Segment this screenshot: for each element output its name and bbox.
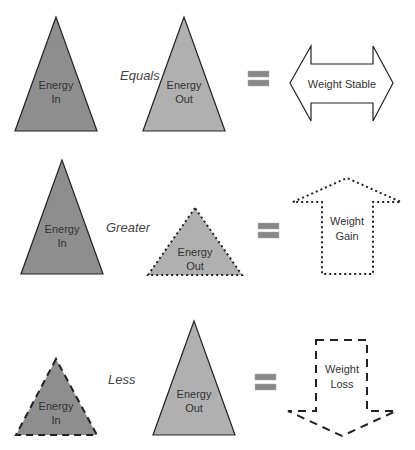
- energy-out-triangle: [153, 321, 235, 435]
- result-label: Weight Stable: [308, 78, 376, 90]
- energy-in-label: Energy: [39, 79, 74, 91]
- energy-in-label-2: In: [51, 414, 60, 426]
- result-label-2: Gain: [335, 230, 358, 242]
- operator-label: Greater: [106, 220, 151, 235]
- energy-out-label-2: Out: [175, 93, 193, 105]
- row-equals: Energy In Equals Energy Out Weight Stabl…: [15, 17, 393, 131]
- energy-out-label: Energy: [177, 388, 212, 400]
- result-label-2: Loss: [330, 378, 354, 390]
- energy-balance-diagram: Energy In Equals Energy Out Weight Stabl…: [0, 0, 415, 450]
- result-label: Weight: [330, 215, 364, 227]
- row-greater: Energy In Greater Energy Out Weight Gain: [21, 160, 401, 275]
- energy-out-label-2: Out: [186, 260, 204, 272]
- energy-out-label: Energy: [167, 79, 202, 91]
- equals-icon: [248, 71, 269, 86]
- operator-label: Less: [108, 372, 136, 387]
- energy-in-label: Energy: [45, 223, 80, 235]
- row-less: Energy In Less Energy Out Weight Loss: [16, 321, 396, 436]
- operator-label: Equals: [120, 68, 160, 83]
- energy-in-label: Energy: [39, 400, 74, 412]
- energy-out-label: Energy: [178, 246, 213, 258]
- energy-in-triangle: [15, 17, 97, 131]
- energy-in-label-2: In: [51, 93, 60, 105]
- equals-icon: [258, 223, 279, 238]
- energy-out-label-2: Out: [185, 402, 203, 414]
- energy-in-label-2: In: [57, 237, 66, 249]
- equals-icon: [255, 374, 276, 390]
- result-label: Weight: [325, 363, 359, 375]
- energy-in-triangle: [21, 160, 103, 274]
